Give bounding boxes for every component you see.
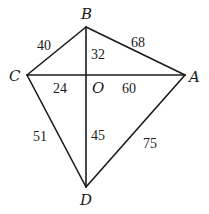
length-label-CD: 51	[33, 129, 47, 144]
vertex-label-C: C	[9, 67, 21, 85]
length-label-BO: 32	[91, 47, 105, 62]
length-label-DA: 75	[143, 136, 157, 151]
length-label-OA: 60	[122, 81, 136, 96]
vertex-label-D: D	[79, 191, 92, 209]
vertex-label-B: B	[80, 5, 92, 23]
vertex-label-O: O	[92, 79, 104, 97]
length-label-OD: 45	[91, 128, 105, 143]
length-label-CB: 40	[37, 38, 51, 53]
kite-diagram: B C A D O 40 68 51 75 32 24 60 45	[0, 0, 209, 214]
edge-CB	[27, 27, 86, 75]
length-label-BA: 68	[131, 35, 145, 50]
vertex-label-A: A	[187, 68, 200, 86]
length-label-CO: 24	[53, 81, 67, 96]
